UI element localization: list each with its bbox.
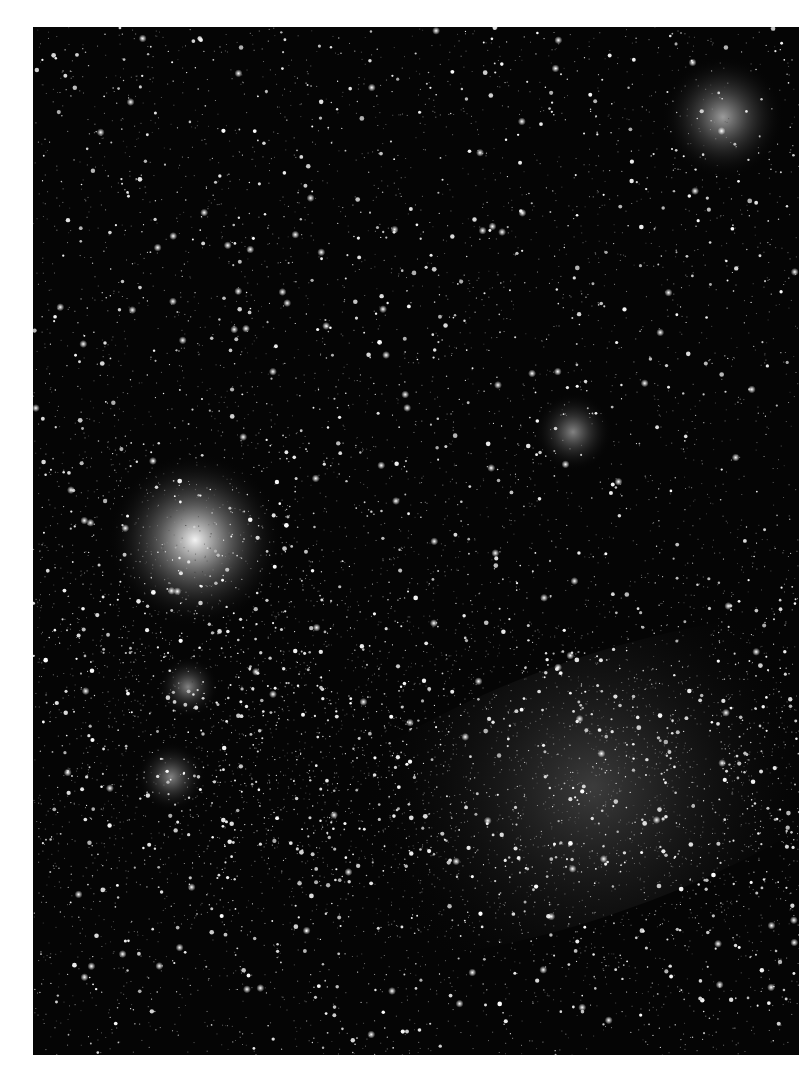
star-field-canvas — [33, 27, 799, 1055]
star-field-photo: Black-and-white astrophotograph of a den… — [33, 27, 799, 1055]
